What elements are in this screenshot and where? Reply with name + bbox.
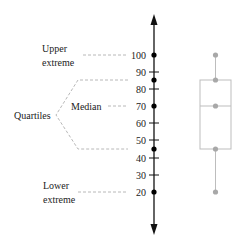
tick-label-100: 100 (131, 50, 146, 61)
tick-label-70: 70 (136, 101, 146, 112)
point-lower-quartile (151, 146, 156, 151)
leader-quartiles (56, 80, 128, 149)
boxplot-diagram: 100 90 80 70 60 50 40 30 20 Upper extrem… (0, 0, 243, 242)
point-lower-extreme (151, 189, 156, 194)
tick-label-60: 60 (136, 118, 146, 129)
leader-lines (56, 55, 128, 192)
tick-labels: 100 90 80 70 60 50 40 30 20 (131, 50, 146, 198)
box-point-lower-extreme (213, 189, 218, 194)
tick-label-90: 90 (136, 67, 146, 78)
point-upper-extreme (151, 52, 156, 57)
box-point-lower-quartile (213, 146, 218, 151)
tick-label-30: 30 (136, 170, 146, 181)
box-point-upper-extreme (213, 52, 218, 57)
number-line-axis (151, 14, 158, 235)
quartile-box (200, 80, 231, 149)
label-upper-extreme-line2: extreme (42, 57, 75, 68)
point-median (151, 103, 156, 108)
box-point-upper-quartile (213, 77, 218, 82)
arrow-down-icon (151, 224, 158, 235)
label-upper-extreme-line1: Upper (42, 43, 68, 54)
label-lower-extreme-line1: Lower (43, 180, 70, 191)
label-median: Median (71, 101, 102, 112)
tick-label-40: 40 (136, 153, 146, 164)
tick-label-20: 20 (136, 187, 146, 198)
annotation-labels: Upper extreme Quartiles Median Lower ext… (14, 43, 102, 205)
label-lower-extreme-line2: extreme (43, 194, 76, 205)
box-point-median (213, 103, 218, 108)
arrow-up-icon (151, 14, 158, 25)
point-upper-quartile (151, 77, 156, 82)
box-plot (200, 52, 231, 194)
tick-label-50: 50 (136, 135, 146, 146)
label-quartiles: Quartiles (14, 110, 51, 121)
tick-label-80: 80 (136, 84, 146, 95)
